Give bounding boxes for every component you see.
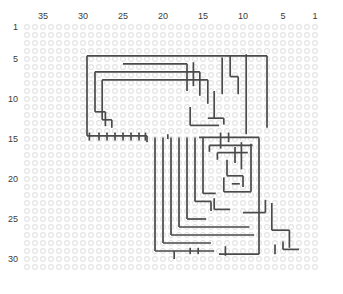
grid-dot [273, 217, 278, 222]
grid-dot [73, 57, 78, 62]
grid-dot [265, 169, 270, 174]
grid-dot [137, 193, 142, 198]
grid-dot [57, 49, 62, 54]
grid-dot [41, 105, 46, 110]
grid-dot [265, 153, 270, 158]
grid-dot [313, 129, 318, 134]
grid-dot [257, 49, 262, 54]
grid-dot [41, 113, 46, 118]
grid-dot [177, 97, 182, 102]
grid-dot [113, 113, 118, 118]
grid-dot [249, 73, 254, 78]
grid-dot [145, 193, 150, 198]
grid-dot [305, 57, 310, 62]
grid-dot [177, 81, 182, 86]
grid-dot [25, 257, 30, 262]
grid-dot [161, 73, 166, 78]
grid-dot [25, 265, 30, 270]
grid-dot [281, 81, 286, 86]
grid-dot [217, 33, 222, 38]
grid-dot [33, 265, 38, 270]
grid-dot [25, 105, 30, 110]
grid-dot [217, 25, 222, 30]
grid-dot [305, 169, 310, 174]
grid-dot [33, 73, 38, 78]
grid-dot [89, 33, 94, 38]
grid-dot [81, 153, 86, 158]
grid-dot [281, 33, 286, 38]
grid-dot [41, 137, 46, 142]
grid-dot [33, 225, 38, 230]
grid-dot [169, 41, 174, 46]
grid-dot [137, 33, 142, 38]
grid-dot [49, 249, 54, 254]
grid-dot [97, 185, 102, 190]
grid-dot [273, 265, 278, 270]
grid-dot [233, 81, 238, 86]
grid-dot [105, 25, 110, 30]
grid-dot [129, 153, 134, 158]
grid-dot [313, 161, 318, 166]
grid-dot [297, 161, 302, 166]
grid-dot [73, 257, 78, 262]
grid-dot [313, 233, 318, 238]
grid-dot [177, 33, 182, 38]
grid-dot [41, 89, 46, 94]
grid-dot [81, 233, 86, 238]
grid-dot [57, 137, 62, 142]
grid-dot [49, 241, 54, 246]
grid-dot [97, 65, 102, 70]
grid-dot [113, 241, 118, 246]
grid-dot [305, 201, 310, 206]
grid-dot [161, 113, 166, 118]
grid-dot [81, 201, 86, 206]
grid-dot [105, 161, 110, 166]
grid-dot [217, 249, 222, 254]
grid-dot [73, 121, 78, 126]
grid-dot [233, 209, 238, 214]
grid-dot [185, 33, 190, 38]
grid-dot [273, 193, 278, 198]
grid-dot [217, 57, 222, 62]
grid-dot [273, 169, 278, 174]
grid-dot [97, 81, 102, 86]
grid-dot [169, 105, 174, 110]
grid-dot [313, 257, 318, 262]
grid-dot [297, 153, 302, 158]
grid-dot [25, 209, 30, 214]
grid-dot [73, 81, 78, 86]
grid-dot [297, 33, 302, 38]
grid-dot [89, 25, 94, 30]
grid-dot [177, 257, 182, 262]
grid-dot [169, 265, 174, 270]
grid-dot [105, 201, 110, 206]
grid-dot [145, 233, 150, 238]
grid-dot [225, 73, 230, 78]
grid-dot [97, 177, 102, 182]
grid-dot [217, 257, 222, 262]
grid-dot [81, 105, 86, 110]
grid-dot [137, 169, 142, 174]
grid-dot [249, 81, 254, 86]
grid-dot [273, 113, 278, 118]
grid-dot [33, 257, 38, 262]
grid-dot [241, 217, 246, 222]
grid-dot [289, 169, 294, 174]
grid-dot [65, 57, 70, 62]
grid-dot [33, 209, 38, 214]
grid-dot [49, 129, 54, 134]
grid-dot [249, 121, 254, 126]
grid-dot [305, 73, 310, 78]
grid-dot [121, 105, 126, 110]
grid-dot [49, 177, 54, 182]
grid-dot [49, 193, 54, 198]
grid-dot [81, 57, 86, 62]
grid-dot [121, 193, 126, 198]
grid-dot [241, 25, 246, 30]
grid-dot [97, 201, 102, 206]
grid-dot [265, 185, 270, 190]
grid-dot [257, 113, 262, 118]
grid-dot [25, 121, 30, 126]
grid-dot [81, 241, 86, 246]
grid-dot [297, 145, 302, 150]
